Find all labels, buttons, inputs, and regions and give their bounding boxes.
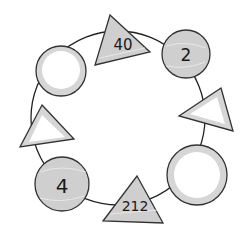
triangle-node-bottom: 212 bbox=[103, 176, 163, 223]
triangle-node-top: 40 bbox=[95, 15, 150, 65]
circle-top-right-label: 2 bbox=[181, 45, 192, 65]
circle-node-bottom-right bbox=[167, 145, 227, 205]
circle-node-top-left bbox=[36, 46, 86, 96]
number-cycle-diagram: 40 2 212 4 bbox=[0, 0, 247, 238]
circle-node-bottom-left: 4 bbox=[35, 157, 89, 211]
triangle-node-left bbox=[20, 105, 74, 147]
triangle-bottom-label: 212 bbox=[122, 198, 149, 214]
circle-bottom-left-label: 4 bbox=[56, 174, 69, 198]
triangle-top-label: 40 bbox=[113, 36, 132, 54]
triangle-node-right bbox=[179, 88, 233, 131]
circle-node-top-right: 2 bbox=[162, 30, 210, 78]
